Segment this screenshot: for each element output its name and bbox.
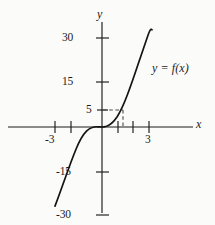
function-label: y = f(x) bbox=[152, 62, 189, 74]
y-tick-label--30: -30 bbox=[56, 209, 71, 221]
y-tick-label-15: 15 bbox=[62, 76, 73, 88]
plot-canvas bbox=[0, 0, 215, 225]
function-curve bbox=[55, 29, 152, 206]
y-tick-label-30: 30 bbox=[62, 32, 73, 44]
x-axis-label: x bbox=[196, 118, 201, 130]
y-axis-label: y bbox=[97, 8, 102, 20]
x-tick-label--3: -3 bbox=[45, 134, 54, 146]
graph-figure: 30 15 5 -15 -30 -3 3 y x y = f(x) bbox=[0, 0, 215, 225]
x-tick-label-3: 3 bbox=[145, 134, 151, 146]
y-tick-label--15: -15 bbox=[56, 166, 71, 178]
y-tick-label-5: 5 bbox=[86, 104, 92, 116]
